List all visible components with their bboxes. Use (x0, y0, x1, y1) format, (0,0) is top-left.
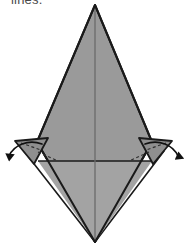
diagram-page: lines. (0, 0, 187, 248)
origami-figure (0, 0, 187, 248)
